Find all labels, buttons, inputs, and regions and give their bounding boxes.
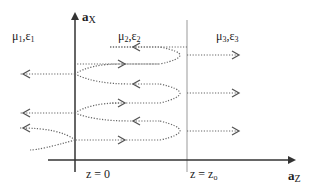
z-axis-label: aZ (288, 168, 301, 184)
reflection-diagram: aX aZ μ1,ε1 μ2,ε2 μ3,ε3 z = 0 z = zo (0, 0, 312, 189)
region-3-label: μ3,ε3 (216, 29, 238, 44)
region-1-label: μ1,ε1 (12, 29, 34, 44)
region-2-label: μ2,ε2 (118, 29, 140, 44)
interface-label-zo: z = zo (190, 167, 217, 182)
interface-label-z0: z = 0 (86, 167, 110, 181)
x-axis-label: aX (82, 9, 97, 25)
wave-paths (20, 47, 238, 150)
